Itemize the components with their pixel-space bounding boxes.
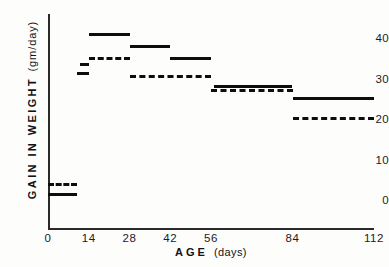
data-segment-solid [130, 45, 171, 48]
y-tick-label: 30 [343, 73, 389, 85]
x-tick-label: 42 [163, 232, 177, 244]
data-segment-dashed [130, 75, 212, 78]
y-tick-label: 40 [343, 32, 389, 44]
x-tick-label: 84 [286, 232, 300, 244]
data-segment-solid [89, 33, 130, 36]
x-tick-label: 112 [364, 232, 384, 244]
data-segment-dashed [89, 57, 130, 60]
data-segment-solid [214, 85, 293, 88]
data-segment-solid [48, 193, 77, 196]
x-tick-label: 56 [204, 232, 218, 244]
y-tick-label: 10 [343, 154, 389, 166]
data-segment-dashed [48, 183, 77, 186]
x-tick-label: 28 [123, 232, 137, 244]
data-segment-solid [80, 63, 89, 66]
y-tick-label: 20 [343, 113, 389, 125]
x-tick-label: 0 [45, 232, 52, 244]
x-tick-label: 14 [82, 232, 96, 244]
data-segment-dashed [211, 89, 293, 92]
plot-area [0, 0, 389, 267]
data-segment-dashed [77, 72, 89, 75]
data-segment-solid [170, 57, 211, 60]
chart-figure: GAIN IN WEIGHT (gm/day) AGE (days) 01020… [0, 0, 389, 267]
y-tick-label: 0 [343, 194, 389, 206]
data-segment-solid [293, 97, 375, 100]
